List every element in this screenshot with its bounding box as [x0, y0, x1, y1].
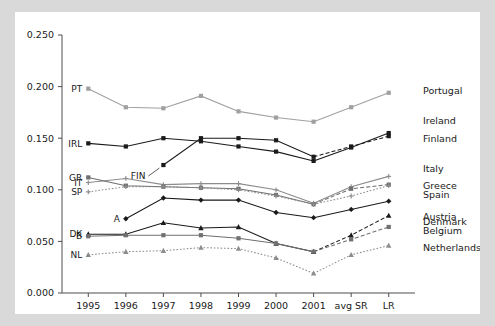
axes [62, 35, 415, 293]
series-portugal: PortugalPT [71, 84, 462, 124]
series-start-label-portugal: PT [71, 84, 82, 94]
data-point [199, 233, 203, 237]
data-point [348, 252, 353, 257]
data-point [86, 180, 91, 185]
data-point [236, 181, 241, 186]
data-point [312, 120, 316, 124]
data-point [86, 189, 91, 194]
y-tick-label: 0.000 [27, 287, 54, 298]
x-tick-label: 1995 [76, 300, 100, 311]
data-point [349, 237, 353, 241]
data-point [161, 163, 165, 167]
series-line [126, 198, 314, 219]
data-point [274, 115, 278, 119]
series-belgium: BelgiumB [76, 225, 462, 254]
data-point [274, 187, 279, 192]
series-label-italy: Italy [423, 163, 444, 174]
x-tick-label: 2000 [264, 300, 288, 311]
data-point [349, 105, 353, 109]
data-point [124, 105, 128, 109]
series-line [163, 138, 313, 165]
series-start-label-netherlands: NL [71, 250, 83, 260]
series-start-label-austria: A [114, 214, 121, 224]
data-point [123, 249, 128, 254]
data-point [312, 155, 316, 159]
data-point [161, 248, 166, 253]
data-point [387, 91, 391, 95]
data-point [236, 136, 240, 140]
data-point [312, 250, 316, 254]
data-point [86, 234, 90, 238]
series-netherlands: NetherlandsNL [71, 242, 480, 276]
series-label-ireland: Ireland [423, 115, 456, 126]
data-point [349, 144, 353, 148]
data-point [349, 194, 354, 199]
series-line [88, 248, 313, 274]
data-point [199, 94, 203, 98]
data-point [86, 175, 90, 179]
series-label-spain: Spain [423, 189, 450, 200]
series-start-label-belgium: B [76, 231, 82, 241]
data-point [386, 213, 391, 218]
data-point [123, 216, 128, 221]
data-point [348, 232, 353, 237]
data-point [236, 109, 240, 113]
data-point [386, 198, 391, 203]
data-point [161, 106, 165, 110]
x-tick-group: 1995199619971998199920002001avg SRLR [76, 293, 395, 311]
finland-leader-line [148, 168, 159, 176]
data-point [199, 136, 203, 140]
series-label-belgium: Belgium [423, 225, 462, 236]
chart-panel: 0.0000.0500.1000.1500.2000.2501995199619… [15, 12, 480, 314]
data-point [86, 87, 90, 91]
data-point [161, 136, 165, 140]
data-point [124, 144, 128, 148]
data-point [236, 197, 241, 202]
series-label-portugal: Portugal [423, 85, 462, 96]
series-label-finland: Finland [423, 133, 457, 144]
x-tick-label: avg SR [335, 300, 369, 311]
series-denmark: DenmarkDK [69, 213, 467, 254]
data-point [312, 159, 316, 163]
series-label-netherlands: Netherlands [423, 242, 480, 253]
series-line [88, 89, 313, 122]
data-point [273, 210, 278, 215]
data-point [386, 174, 391, 179]
data-point [236, 144, 240, 148]
y-tick-label: 0.050 [27, 236, 54, 247]
data-point [161, 195, 166, 200]
y-tick-group: 0.0000.0500.1000.1500.2000.250 [27, 29, 62, 298]
data-point [311, 215, 316, 220]
x-tick-label: 1996 [114, 300, 138, 311]
series-layer: PortugalPTIrelandIRLFinlandFINItalyITGre… [68, 84, 480, 276]
data-point [387, 134, 391, 138]
data-point [123, 176, 128, 181]
data-point [274, 138, 278, 142]
data-point [274, 241, 278, 245]
series-start-label-spain: SP [71, 187, 83, 197]
series-start-label-ireland: IRL [68, 139, 82, 149]
x-tick-label: LR [383, 300, 395, 311]
data-point [86, 252, 91, 257]
data-point [161, 220, 166, 225]
x-tick-label: 1997 [151, 300, 175, 311]
data-point [198, 245, 203, 250]
y-tick-label: 0.200 [27, 81, 54, 92]
data-point [386, 243, 391, 248]
y-tick-label: 0.150 [27, 133, 54, 144]
y-tick-label: 0.250 [27, 29, 54, 40]
series-line-projection [314, 246, 389, 274]
data-point [161, 233, 165, 237]
x-tick-label: 1998 [189, 300, 213, 311]
data-point [348, 207, 353, 212]
series-finland: FinlandFIN [131, 133, 457, 181]
series-austria: AustriaA [114, 195, 457, 224]
data-point [198, 197, 203, 202]
series-greece: GreeceGR [69, 173, 457, 207]
line-chart: 0.0000.0500.1000.1500.2000.2501995199619… [15, 12, 480, 314]
series-start-label-greece: GR [69, 173, 82, 183]
data-point [349, 187, 353, 191]
x-tick-label: 1999 [226, 300, 250, 311]
data-point [124, 233, 128, 237]
x-tick-label: 2001 [302, 300, 326, 311]
